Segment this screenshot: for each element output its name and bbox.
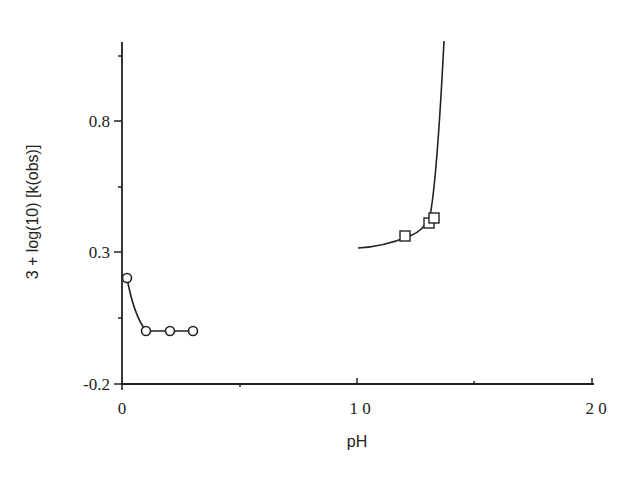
- y-tick-label: -0.2: [83, 375, 110, 394]
- x-tick-label: 1 0: [349, 399, 370, 418]
- acid-fit-curve: [127, 278, 193, 331]
- x-axis-label: pH: [347, 433, 367, 450]
- x-tick-label: 2 0: [585, 399, 606, 418]
- y-ticks: [114, 56, 122, 384]
- chart: 0.8 0.3 -0.2 0 1 0 2 0 pH 3 + log(10) [k…: [0, 0, 631, 482]
- square-markers: [400, 213, 439, 241]
- y-axis-label: 3 + log(10) [k(obs)]: [24, 145, 41, 280]
- x-tick-label: 0: [118, 399, 127, 418]
- y-tick-label: 0.8: [89, 112, 110, 131]
- y-tick-label: 0.3: [89, 243, 110, 262]
